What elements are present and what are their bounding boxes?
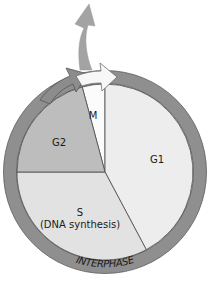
exit-arrow xyxy=(75,4,95,70)
phase-sublabel-s: (DNA synthesis) xyxy=(40,219,120,230)
phase-pie xyxy=(17,84,193,260)
phase-label-g2: G2 xyxy=(52,137,66,148)
phase-label-m: M xyxy=(89,110,98,121)
phase-label-s: S xyxy=(77,207,83,218)
cell-cycle-diagram: MG1S(DNA synthesis)G2 INTERPHASE xyxy=(0,0,211,284)
phase-label-g1: G1 xyxy=(150,154,164,165)
